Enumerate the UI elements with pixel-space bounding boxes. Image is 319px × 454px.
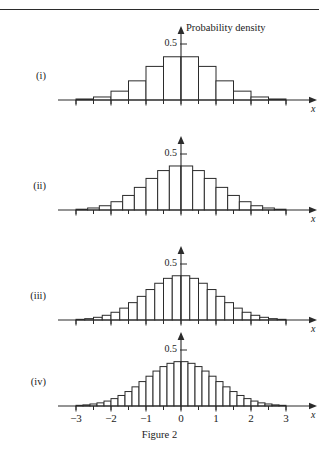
histogram-bar — [111, 91, 129, 100]
figure-caption: Figure 2 — [0, 429, 319, 440]
histogram-bar — [99, 206, 111, 210]
histogram-bar — [111, 312, 120, 320]
page-header-remnant — [46, 0, 236, 7]
histogram-bar — [181, 362, 188, 406]
x-axis-label-2: x — [311, 213, 315, 224]
x-tick-label: 3 — [276, 412, 296, 424]
histogram-bar — [137, 296, 146, 320]
histogram-bar — [120, 308, 129, 320]
histogram-bar — [195, 367, 202, 406]
y-tick-label-4: 0.5 — [153, 343, 177, 354]
histogram-bar — [230, 392, 237, 406]
histogram-bar — [169, 166, 181, 210]
histogram-bar — [181, 166, 193, 210]
histogram-bar — [228, 195, 240, 210]
histogram-bar — [111, 399, 118, 406]
histogram-bar — [146, 290, 155, 320]
histogram-bar — [225, 303, 234, 320]
histogram-bar — [167, 363, 174, 406]
y-tick-label-2: 0.5 — [153, 147, 177, 158]
histogram-bar — [160, 367, 167, 406]
histogram-bar — [251, 206, 263, 210]
x-tick-label: 1 — [206, 412, 226, 424]
x-axis-label-4: x — [311, 409, 315, 420]
histogram-bar — [146, 66, 164, 100]
histogram-bar — [139, 382, 146, 406]
histogram-bar — [216, 81, 234, 100]
histogram-panel-4: (iv)0.5x−3−2−10123 — [0, 344, 319, 430]
histogram-bar — [146, 376, 153, 406]
x-tick-label: 0 — [171, 412, 191, 424]
histogram-bar — [204, 178, 216, 210]
y-tick-label-1: 0.5 — [153, 37, 177, 48]
histogram-bar — [234, 308, 243, 320]
histogram-bar — [251, 315, 260, 320]
histogram-bar — [244, 399, 251, 406]
histogram-bar — [237, 395, 244, 406]
histogram-bar — [129, 81, 147, 100]
histogram-bar — [118, 395, 125, 406]
x-tick-label: −1 — [136, 412, 156, 424]
histogram-bar — [181, 57, 199, 100]
y-axis-title: Probability density — [186, 22, 266, 33]
histogram-bar — [242, 312, 251, 320]
histogram-bar — [102, 315, 111, 320]
histogram-bar — [123, 195, 135, 210]
x-tick-label: 2 — [241, 412, 261, 424]
y-tick-label-3: 0.5 — [153, 257, 177, 268]
histogram-bar — [104, 401, 111, 406]
histogram-bar — [174, 362, 181, 406]
y-axis-arrow-icon — [178, 332, 185, 340]
histogram-bar — [209, 376, 216, 406]
histogram-bar — [193, 171, 205, 210]
histogram-bar — [158, 171, 170, 210]
histogram-bar — [146, 178, 158, 210]
histogram-bar — [216, 187, 228, 210]
histogram-bar — [125, 392, 132, 406]
histogram-bar — [164, 278, 173, 320]
x-tick-label: −2 — [101, 412, 121, 424]
histogram-bar — [202, 371, 209, 406]
histogram-bar — [199, 66, 217, 100]
x-axis-label-1: x — [311, 103, 315, 114]
histogram-bar — [111, 202, 123, 210]
histogram-bar — [132, 387, 139, 406]
histogram-bar — [181, 276, 190, 320]
histogram-bar — [216, 382, 223, 406]
histogram-panel-2: (ii)0.5x — [0, 134, 319, 220]
y-axis-arrow-icon — [178, 136, 185, 144]
histogram-bar — [190, 278, 199, 320]
histogram-bar — [239, 202, 251, 210]
histogram-bar — [153, 371, 160, 406]
header-rule — [0, 9, 319, 10]
histogram-bar — [234, 91, 252, 100]
histogram-bar — [164, 57, 182, 100]
histogram-panel-1: (i)0.5xProbability density — [0, 24, 319, 110]
histogram-bar — [251, 401, 258, 406]
y-axis-arrow-icon — [178, 26, 185, 34]
histogram-bar — [223, 387, 230, 406]
figure-root: (i)0.5xProbability density(ii)0.5x(iii)0… — [0, 0, 319, 454]
histogram-bar — [207, 290, 216, 320]
histogram-bar — [199, 283, 208, 320]
histogram-bar — [172, 276, 181, 320]
histogram-bar — [155, 283, 164, 320]
histogram-panel-3: (iii)0.5x — [0, 244, 319, 330]
x-axis-label-3: x — [311, 323, 315, 334]
histogram-bar — [129, 303, 138, 320]
x-tick-label: −3 — [66, 412, 86, 424]
histogram-plot-4 — [0, 344, 319, 430]
histogram-bar — [134, 187, 146, 210]
histogram-bar — [188, 363, 195, 406]
histogram-bar — [216, 296, 225, 320]
y-axis-arrow-icon — [178, 246, 185, 254]
